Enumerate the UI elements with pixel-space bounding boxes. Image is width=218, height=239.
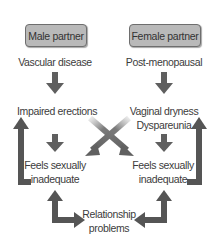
relationship-problems-line2: problems: [74, 222, 144, 235]
female-partner-box: Female partner: [129, 24, 201, 47]
down-arrow-icon: [155, 134, 173, 152]
female-feels-inadequate-line1: Feels sexually: [128, 159, 198, 172]
male-feels-inadequate-line1: Feels sexually: [20, 159, 90, 172]
male-feels-inadequate-line2: inadequate: [20, 173, 90, 186]
post-menopausal-label: Post-menopausal: [119, 56, 209, 69]
down-arrow-icon: [46, 134, 64, 152]
male-partner-box: Male partner: [25, 24, 87, 47]
vaginal-dryness-label: Vaginal dryness: [124, 105, 204, 118]
impaired-erections-label: Impaired erections: [12, 105, 102, 118]
vascular-disease-label: Vascular disease: [10, 56, 100, 69]
relationship-problems-line1: Relationship: [74, 208, 144, 221]
down-arrow-icon: [46, 72, 64, 94]
female-feels-inadequate-line2: inadequate: [128, 173, 198, 186]
down-arrow-icon: [155, 72, 173, 94]
dyspareunia-label: Dyspareunia: [124, 119, 204, 132]
